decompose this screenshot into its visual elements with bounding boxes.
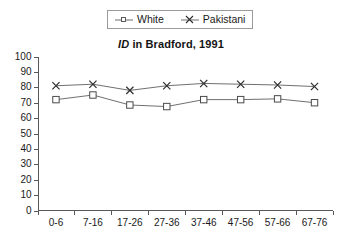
data-point-white-7 [311, 100, 317, 106]
data-point-white-4 [201, 96, 207, 102]
y-axis-label: 60 [20, 112, 32, 123]
y-axis-label: 40 [20, 143, 32, 154]
y-axis-label: 20 [20, 174, 32, 185]
x-axis-label: 67-76 [302, 217, 328, 228]
y-axis-label: 50 [20, 128, 32, 139]
data-point-white-6 [274, 96, 280, 102]
y-axis-label: 0 [26, 205, 32, 216]
data-point-white-3 [164, 103, 170, 109]
x-axis-label: 17-26 [117, 217, 143, 228]
data-point-white-2 [127, 102, 133, 108]
x-axis-label: 57-66 [265, 217, 291, 228]
x-axis-label: 0-6 [49, 217, 64, 228]
x-axis-label: 7-16 [83, 217, 103, 228]
x-axis-label: 47-56 [228, 217, 254, 228]
y-axis-label: 80 [20, 81, 32, 92]
y-axis-label: 100 [15, 51, 32, 62]
y-axis-label: 30 [20, 158, 32, 169]
plot-area: 01020304050607080901000-67-1617-2627-363… [0, 0, 342, 236]
y-axis-label: 90 [20, 66, 32, 77]
y-axis-label: 10 [20, 189, 32, 200]
y-axis-label: 70 [20, 97, 32, 108]
x-axis-label: 37-46 [191, 217, 217, 228]
data-point-white-1 [90, 92, 96, 98]
data-point-white-0 [53, 96, 59, 102]
x-axis-label: 27-36 [154, 217, 180, 228]
chart-container: White Pakistani ID in Bradford, 1991 010… [0, 0, 342, 236]
data-point-white-5 [237, 96, 243, 102]
